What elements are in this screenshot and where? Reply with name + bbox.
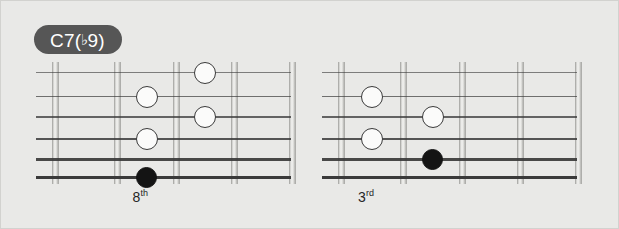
note-marker — [422, 106, 444, 128]
note-marker — [136, 86, 158, 108]
note-marker — [194, 106, 216, 128]
fret-line-3 — [173, 62, 180, 184]
fret-line-2 — [114, 62, 121, 184]
fret-line-3 — [459, 62, 466, 184]
string-line-6 — [36, 176, 291, 179]
root-note-marker — [422, 149, 443, 170]
chord-diagram-panel: C7(♭9) 8th 3rd — [0, 0, 619, 229]
position-label-ordinal: rd — [366, 188, 374, 198]
fret-line-1 — [338, 62, 345, 184]
fretboard-3rd — [322, 59, 577, 184]
fret-line-4 — [231, 62, 238, 184]
string-line-1 — [322, 72, 577, 73]
note-marker — [194, 62, 216, 84]
string-line-3 — [36, 116, 291, 118]
chord-name-suffix: 9) — [87, 30, 104, 51]
fret-line-5 — [575, 62, 582, 184]
chord-name-badge: C7(♭9) — [34, 25, 122, 54]
note-marker — [361, 128, 383, 150]
fret-line-2 — [400, 62, 407, 184]
fretboard-8th — [36, 59, 291, 184]
position-label-ordinal: th — [141, 188, 149, 198]
string-line-6 — [322, 176, 577, 179]
position-label-number: 8 — [133, 189, 141, 205]
string-line-5 — [36, 158, 291, 161]
string-line-2 — [36, 96, 291, 97]
note-marker — [361, 86, 383, 108]
position-label-3rd: 3rd — [358, 188, 374, 205]
string-line-3 — [322, 116, 577, 118]
root-note-marker — [136, 167, 157, 188]
fret-line-1 — [52, 62, 59, 184]
fret-line-5 — [289, 62, 296, 184]
chord-name-prefix: C7( — [50, 30, 81, 51]
string-line-4 — [36, 138, 291, 140]
note-marker — [136, 128, 158, 150]
position-label-8th: 8th — [133, 188, 149, 205]
string-line-5 — [322, 158, 577, 161]
position-label-number: 3 — [358, 189, 366, 205]
fret-line-4 — [517, 62, 524, 184]
string-line-1 — [36, 72, 291, 73]
